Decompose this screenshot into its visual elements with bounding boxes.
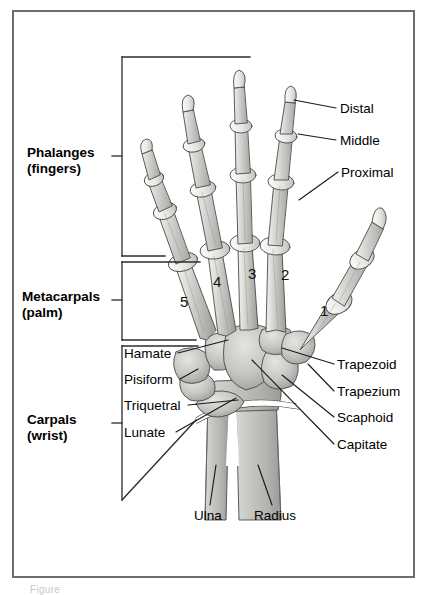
group-label-phalanges-line1: Phalanges <box>27 145 95 161</box>
metacarpal-number-5: 5 <box>180 293 188 310</box>
label-ulna: Ulna <box>194 508 222 524</box>
label-radius: Radius <box>254 508 296 524</box>
label-lunate: Lunate <box>124 425 165 441</box>
label-triquetral: Triquetral <box>124 398 181 414</box>
group-label-metacarpals: Metacarpals (palm) <box>22 289 100 320</box>
group-label-carpals-line1: Carpals <box>27 412 77 428</box>
metacarpal-number-1: 1 <box>320 302 328 319</box>
label-distal: Distal <box>340 101 374 117</box>
label-hamate: Hamate <box>124 346 171 362</box>
label-pisiform: Pisiform <box>124 372 173 388</box>
label-scaphoid: Scaphoid <box>337 410 393 426</box>
group-label-carpals-line2: (wrist) <box>27 428 77 444</box>
group-label-phalanges: Phalanges (fingers) <box>27 145 95 176</box>
label-middle: Middle <box>340 133 380 149</box>
label-trapezoid: Trapezoid <box>337 357 397 373</box>
label-proximal: Proximal <box>341 165 394 181</box>
metacarpal-number-4: 4 <box>213 273 221 290</box>
label-capitate: Capitate <box>337 437 387 453</box>
figure-caption: Figure <box>30 584 60 595</box>
group-label-phalanges-line2: (fingers) <box>27 161 95 177</box>
group-label-carpals: Carpals (wrist) <box>27 412 77 443</box>
group-label-metacarpals-line2: (palm) <box>22 305 100 321</box>
metacarpal-number-3: 3 <box>248 265 256 282</box>
group-label-metacarpals-line1: Metacarpals <box>22 289 100 305</box>
metacarpal-number-2: 2 <box>281 266 289 283</box>
label-trapezium: Trapezium <box>337 384 400 400</box>
